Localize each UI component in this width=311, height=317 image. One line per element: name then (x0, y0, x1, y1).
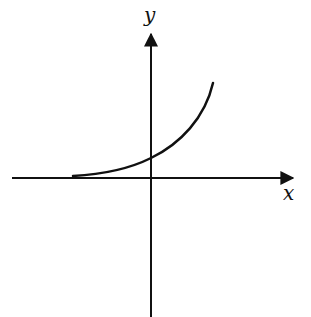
y-axis-label: y (143, 3, 156, 27)
graph: y x (0, 0, 311, 317)
exponential-curve (73, 83, 213, 176)
x-axis-label: x (283, 181, 294, 205)
